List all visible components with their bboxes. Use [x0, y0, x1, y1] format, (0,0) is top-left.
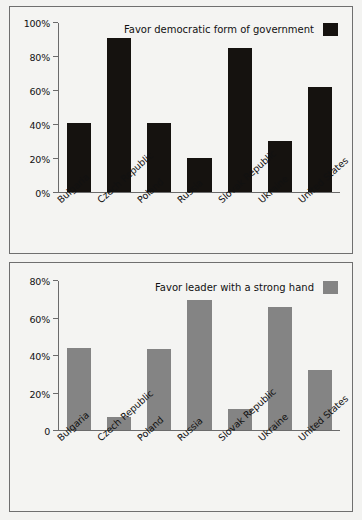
- y-tick-label-strong-hand-4: 80%: [29, 276, 50, 287]
- bar[interactable]: [268, 307, 292, 430]
- y-tick-label-democratic-0: 0%: [35, 188, 50, 199]
- bar-slot: [260, 281, 300, 430]
- chart-panel-strong-hand: Favor leader with a strong hand 020%40%6…: [9, 262, 353, 512]
- y-tick-label-strong-hand-3: 60%: [29, 313, 50, 324]
- y-tick-democratic-0: [53, 192, 58, 193]
- chart-page: Favor democratic form of government 0%20…: [0, 0, 362, 520]
- y-tick-label-democratic-2: 40%: [29, 120, 50, 131]
- y-tick-strong-hand-3: [53, 318, 58, 319]
- bar-group-democratic: [59, 23, 340, 192]
- bar[interactable]: [187, 300, 211, 430]
- bar-slot: [179, 281, 219, 430]
- y-tick-label-democratic-1: 20%: [29, 154, 50, 165]
- category-slot: Slovak Republic: [220, 195, 260, 205]
- category-slot: United States: [300, 195, 340, 205]
- bar-slot: [139, 23, 179, 192]
- category-slot: Bulgaria: [59, 195, 99, 205]
- category-slot: Poland: [139, 433, 179, 443]
- chart-panel-democratic: Favor democratic form of government 0%20…: [9, 6, 353, 254]
- y-tick-democratic-5: [53, 22, 58, 23]
- x-category-labels-democratic: BulgariaCzech RepublicPolandRussiaSlovak…: [59, 195, 340, 205]
- axes-strong-hand: 020%40%60%80%: [58, 281, 340, 431]
- category-slot: Czech Republic: [99, 195, 139, 205]
- category-slot: Poland: [139, 195, 179, 205]
- y-tick-democratic-2: [53, 124, 58, 125]
- bar-slot: [179, 23, 219, 192]
- y-tick-label-democratic-3: 60%: [29, 86, 50, 97]
- y-tick-label-democratic-5: 100%: [24, 18, 50, 29]
- y-tick-label-strong-hand-0: 0: [44, 426, 50, 437]
- bar-slot: [59, 23, 99, 192]
- x-category-labels-strong-hand: BulgariaCzech RepublicPolandRussiaSlovak…: [59, 433, 340, 443]
- y-tick-label-strong-hand-1: 20%: [29, 388, 50, 399]
- y-tick-democratic-1: [53, 158, 58, 159]
- bar-group-strong-hand: [59, 281, 340, 430]
- y-tick-strong-hand-4: [53, 280, 58, 281]
- category-slot: Ukraine: [260, 433, 300, 443]
- category-slot: Czech Republic: [99, 433, 139, 443]
- y-tick-strong-hand-2: [53, 355, 58, 356]
- category-slot: Russia: [179, 433, 219, 443]
- bar-slot: [59, 281, 99, 430]
- bar-slot: [139, 281, 179, 430]
- y-tick-democratic-4: [53, 56, 58, 57]
- plot-area-strong-hand: Favor leader with a strong hand 020%40%6…: [10, 263, 352, 511]
- y-tick-strong-hand-0: [53, 430, 58, 431]
- category-slot: Slovak Republic: [220, 433, 260, 443]
- y-tick-label-strong-hand-2: 40%: [29, 351, 50, 362]
- category-slot: Russia: [179, 195, 219, 205]
- category-slot: United States: [300, 433, 340, 443]
- category-slot: Ukraine: [260, 195, 300, 205]
- y-tick-democratic-3: [53, 90, 58, 91]
- y-tick-label-democratic-4: 80%: [29, 52, 50, 63]
- category-slot: Bulgaria: [59, 433, 99, 443]
- plot-area-democratic: Favor democratic form of government 0%20…: [10, 7, 352, 253]
- y-tick-strong-hand-1: [53, 393, 58, 394]
- axes-democratic: 0%20%40%60%80%100%: [58, 23, 340, 193]
